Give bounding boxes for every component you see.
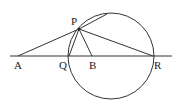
geometry-diagram: A P Q B R [0, 0, 178, 106]
label-B: B [89, 59, 96, 71]
label-Q: Q [59, 59, 67, 71]
label-P: P [71, 15, 77, 27]
point-P [78, 28, 81, 31]
label-A: A [14, 59, 22, 71]
tangent-line-at-P [79, 14, 107, 29]
label-R: R [154, 59, 162, 71]
